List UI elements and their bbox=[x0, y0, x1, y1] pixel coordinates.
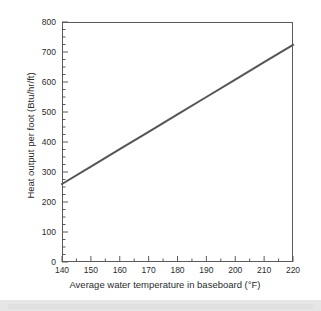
page-scan-band-streak bbox=[8, 304, 313, 309]
chart-figure: 0100200300400500600700800 14015016017018… bbox=[0, 0, 321, 311]
page-scan-band bbox=[0, 300, 321, 311]
x-axis-title: Average water temperature in baseboard (… bbox=[30, 279, 300, 290]
plot-frame bbox=[62, 22, 293, 262]
x-axis-tick-label-text: 220 bbox=[276, 265, 310, 276]
x-axis-tick-label: 220 bbox=[276, 265, 310, 276]
y-axis-title: Heat output per foot (Btu/hr/ft) bbox=[25, 21, 36, 251]
